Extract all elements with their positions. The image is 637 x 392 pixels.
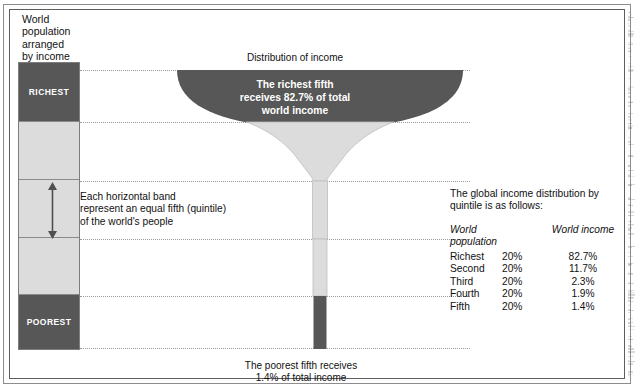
row-income: 1.4%	[544, 301, 622, 314]
page-title-line-2: population	[22, 25, 107, 37]
bottom-caption-line-1: The poorest fifth receives	[196, 360, 406, 372]
quintile-band-second	[19, 121, 79, 179]
table-row: Third 20% 2.3%	[450, 276, 622, 289]
page-title-line-1: World	[22, 13, 107, 25]
row-group: Fifth	[450, 301, 502, 314]
bowl-callout-line-1: The richest fifth	[197, 78, 393, 91]
quintile-band-fourth	[19, 237, 79, 294]
row-income: 11.7%	[544, 263, 622, 276]
table-row: Fourth 20% 1.9%	[450, 288, 622, 301]
row-share: 20%	[502, 251, 544, 264]
table-row: Second 20% 11.7%	[450, 263, 622, 276]
band-separator-4	[19, 294, 79, 295]
table-header-row: World population World income	[450, 224, 622, 251]
bottom-caption: The poorest fifth receives 1.4% of total…	[196, 360, 406, 384]
income-distribution-panel: The global income distribution by quinti…	[450, 188, 622, 313]
page-title-line-3: arranged	[22, 38, 107, 50]
row-share: 20%	[502, 301, 544, 314]
row-group: Third	[450, 276, 502, 289]
band-note-line-3: of the world's people	[80, 216, 320, 228]
row-group: Richest	[450, 251, 502, 264]
income-distribution-table: World population World income Richest 20…	[450, 224, 622, 314]
row-share: 20%	[502, 276, 544, 289]
page-title-line-4: by income	[22, 50, 107, 62]
bottom-caption-line-2: 1.4% of total income	[196, 372, 406, 384]
bowl-callout-line-3: world income	[197, 104, 393, 117]
row-group: Fourth	[450, 288, 502, 301]
row-income: 1.9%	[544, 288, 622, 301]
band-separator-2	[19, 179, 79, 180]
scan-margin-artifact	[627, 12, 636, 378]
income-panel-lead-line-2: quintile is as follows:	[450, 200, 622, 212]
row-income: 2.3%	[544, 276, 622, 289]
bowl-callout-text: The richest fifth receives 82.7% of tota…	[197, 78, 393, 118]
distribution-caption: Distribution of income	[200, 52, 390, 64]
figure-page: World population arranged by income RICH…	[0, 0, 637, 392]
quintile-height-arrow-icon	[46, 182, 59, 239]
glass-stem-fourth-quintile	[313, 239, 327, 296]
bowl-callout-line-2: receives 82.7% of total	[197, 91, 393, 104]
band-note-line-2: represent an equal fifth (quintile)	[80, 203, 320, 215]
quintile-band-poorest-label: POOREST	[19, 317, 79, 327]
row-share: 20%	[502, 263, 544, 276]
column-header-population: World population	[450, 224, 502, 251]
band-note: Each horizontal band represent an equal …	[80, 191, 320, 228]
quintile-band-richest: RICHEST	[19, 63, 79, 121]
quintile-band-poorest: POOREST	[19, 294, 79, 349]
glass-stem-poorest-quintile	[314, 296, 327, 349]
income-panel-lead: The global income distribution by quinti…	[450, 188, 622, 213]
row-share: 20%	[502, 288, 544, 301]
glass-flare-second-quintile	[246, 122, 394, 181]
band-separator-1	[19, 121, 79, 122]
row-group: Second	[450, 263, 502, 276]
income-panel-lead-line-1: The global income distribution by	[450, 188, 622, 200]
row-income: 82.7%	[544, 251, 622, 264]
table-row: Fifth 20% 1.4%	[450, 301, 622, 314]
table-row: Richest 20% 82.7%	[450, 251, 622, 264]
band-note-line-1: Each horizontal band	[80, 191, 320, 203]
quintile-band-richest-label: RICHEST	[19, 87, 79, 97]
page-title: World population arranged by income	[22, 13, 107, 63]
column-header-income: World income	[544, 224, 622, 251]
